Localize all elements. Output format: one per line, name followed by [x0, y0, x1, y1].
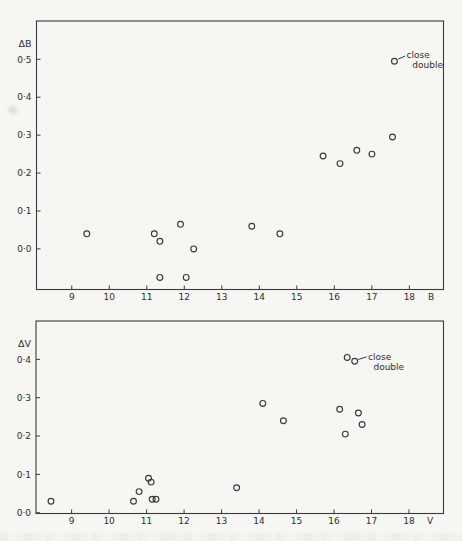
- panel-border: [36, 321, 444, 514]
- y-tick-label: 0·0: [17, 244, 32, 254]
- annotation-leader-line: [358, 357, 366, 360]
- y-axis-title: ΔV: [18, 338, 31, 349]
- data-point: [369, 151, 375, 157]
- annotation-leader-line: [398, 56, 405, 59]
- y-tick-label: 0·4: [17, 92, 32, 102]
- x-tick-label: 17: [366, 516, 377, 526]
- annotation-text-line1: close: [368, 352, 392, 362]
- data-point: [157, 238, 163, 244]
- panel-border: [37, 21, 444, 290]
- x-axis-title: V: [427, 516, 434, 526]
- data-point: [84, 231, 90, 237]
- scan-artifact-caption-smudge: [0, 533, 462, 541]
- data-point: [178, 221, 184, 227]
- data-point: [359, 422, 365, 428]
- x-tick-label: 15: [291, 292, 302, 302]
- x-tick-label: 10: [103, 516, 115, 526]
- data-point: [191, 246, 197, 252]
- data-point: [131, 498, 137, 504]
- annotation-text-line2: double: [373, 362, 404, 372]
- data-point: [342, 431, 348, 437]
- x-tick-label: 12: [179, 292, 190, 302]
- y-tick-label: 0·2: [17, 431, 31, 441]
- y-tick-label: 0·3: [17, 130, 31, 140]
- y-tick-label: 0·1: [17, 470, 31, 480]
- y-tick-label: 0·5: [17, 55, 31, 65]
- scan-artifact-dot: [8, 106, 18, 114]
- x-tick-label: 9: [69, 516, 75, 526]
- x-tick-label: 10: [104, 292, 116, 302]
- y-tick-label: 0·4: [17, 355, 32, 365]
- annotation-text-line2: double: [412, 60, 443, 70]
- x-tick-label: 15: [291, 516, 302, 526]
- data-point: [234, 485, 240, 491]
- data-point: [277, 231, 283, 237]
- x-tick-label: 12: [178, 516, 189, 526]
- data-point: [48, 498, 54, 504]
- data-point: [153, 496, 159, 502]
- data-point: [183, 275, 189, 281]
- data-point: [151, 231, 157, 237]
- data-point: [136, 489, 142, 495]
- y-tick-label: 0·1: [17, 206, 31, 216]
- x-tick-label: 18: [403, 516, 415, 526]
- y-tick-label: 0·0: [17, 508, 32, 518]
- data-point: [337, 161, 343, 167]
- x-tick-label: 11: [141, 516, 152, 526]
- annotation-text-line1: close: [407, 50, 431, 60]
- x-tick-label: 16: [328, 516, 340, 526]
- x-tick-label: 18: [404, 292, 416, 302]
- data-point: [337, 406, 343, 412]
- chart-delta-v-vs-v: 9101112131415161718V0·40·30·20·10·0ΔVclo…: [17, 321, 444, 526]
- y-axis-title: ΔB: [18, 38, 31, 49]
- x-tick-label: 9: [69, 292, 75, 302]
- x-axis-title: B: [428, 292, 434, 302]
- x-tick-label: 14: [254, 292, 266, 302]
- y-tick-label: 0·3: [17, 393, 31, 403]
- x-tick-label: 16: [329, 292, 341, 302]
- data-point: [249, 223, 255, 229]
- data-point: [354, 147, 360, 153]
- data-point: [157, 275, 163, 281]
- figure-canvas: 9101112131415161718B0·50·40·30·20·10·0ΔB…: [0, 0, 462, 541]
- data-point: [260, 401, 266, 407]
- close-double-point: [344, 355, 350, 361]
- data-point: [356, 410, 362, 416]
- close-double-point: [392, 58, 398, 64]
- chart-delta-b-vs-b: 9101112131415161718B0·50·40·30·20·10·0ΔB…: [17, 21, 443, 302]
- close-double-point: [352, 358, 358, 364]
- scatter-figure-page: 9101112131415161718B0·50·40·30·20·10·0ΔB…: [0, 0, 462, 541]
- x-tick-label: 17: [366, 292, 377, 302]
- data-point: [320, 153, 326, 159]
- x-tick-label: 13: [216, 516, 227, 526]
- x-tick-label: 11: [141, 292, 152, 302]
- data-point: [390, 134, 396, 140]
- x-tick-label: 13: [216, 292, 227, 302]
- x-tick-label: 14: [253, 516, 265, 526]
- data-point: [281, 418, 287, 424]
- y-tick-label: 0·2: [17, 168, 31, 178]
